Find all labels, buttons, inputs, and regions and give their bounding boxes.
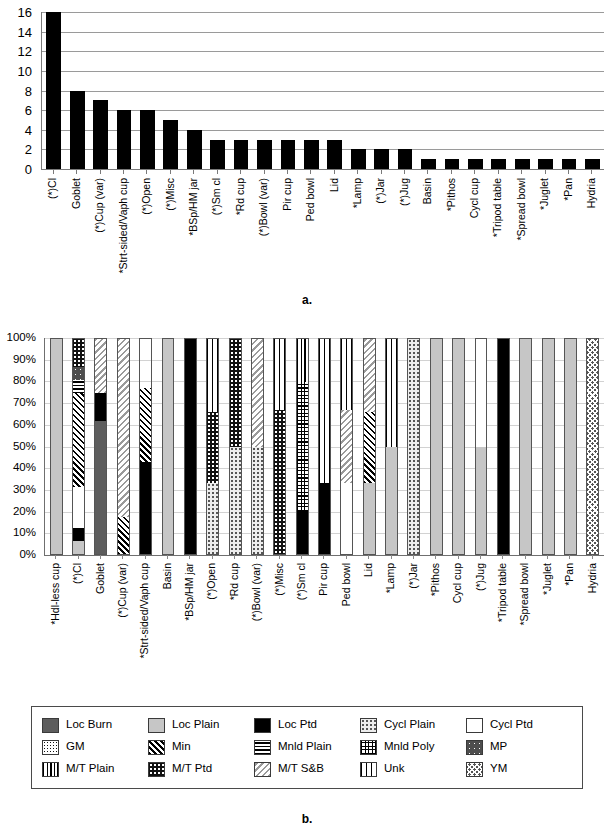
stack-segment-loc_ptd[interactable] bbox=[498, 339, 509, 554]
stacked-bar[interactable] bbox=[519, 338, 532, 555]
legend-item[interactable]: Cycl Ptd bbox=[466, 718, 572, 733]
stack-segment-loc_burn[interactable] bbox=[95, 421, 106, 554]
stack-segment-mp[interactable] bbox=[73, 367, 84, 380]
stacked-bar[interactable] bbox=[430, 338, 443, 555]
bar-slot[interactable] bbox=[534, 12, 557, 169]
bar[interactable] bbox=[538, 159, 553, 169]
bar[interactable] bbox=[70, 91, 85, 170]
bar[interactable] bbox=[210, 140, 225, 169]
stacked-bar-slot[interactable] bbox=[246, 338, 268, 555]
legend-item[interactable]: Unk bbox=[360, 762, 466, 777]
stacked-bar-slot[interactable] bbox=[90, 338, 112, 555]
bar[interactable] bbox=[304, 140, 319, 169]
stacked-bar-slot[interactable] bbox=[492, 338, 514, 555]
bar-slot[interactable] bbox=[487, 12, 510, 169]
stacked-bar[interactable] bbox=[229, 338, 242, 555]
stacked-bar[interactable] bbox=[318, 338, 331, 555]
stacked-bar-slot[interactable] bbox=[380, 338, 402, 555]
legend-item[interactable]: GM bbox=[42, 740, 148, 755]
stack-segment-min[interactable] bbox=[73, 393, 84, 488]
bar-slot[interactable] bbox=[42, 12, 65, 169]
stack-segment-mt_plain[interactable] bbox=[297, 339, 308, 382]
legend-item[interactable]: Loc Ptd bbox=[254, 718, 360, 733]
bar[interactable] bbox=[257, 140, 272, 169]
stacked-bar[interactable] bbox=[497, 338, 510, 555]
stack-segment-mt_sb[interactable] bbox=[341, 410, 352, 483]
bar[interactable] bbox=[46, 12, 61, 169]
stacked-bar[interactable] bbox=[542, 338, 555, 555]
stack-segment-loc_ptd[interactable] bbox=[140, 462, 151, 554]
stack-segment-loc_ptd[interactable] bbox=[319, 483, 330, 554]
legend-item[interactable]: Mnld Plain bbox=[254, 740, 360, 755]
stacked-bar-slot[interactable] bbox=[336, 338, 358, 555]
stacked-bar[interactable] bbox=[50, 338, 63, 555]
bar-slot[interactable] bbox=[159, 12, 182, 169]
bar-slot[interactable] bbox=[417, 12, 440, 169]
bar-slot[interactable] bbox=[276, 12, 299, 169]
bar-slot[interactable] bbox=[300, 12, 323, 169]
stack-segment-unk[interactable] bbox=[341, 339, 352, 410]
legend-item[interactable]: M/T S&B bbox=[254, 762, 360, 777]
bar-slot[interactable] bbox=[65, 12, 88, 169]
stacked-bar-slot[interactable] bbox=[45, 338, 67, 555]
bar[interactable] bbox=[421, 159, 436, 169]
bar[interactable] bbox=[140, 110, 155, 169]
stack-segment-loc_plain[interactable] bbox=[163, 339, 174, 554]
stacked-bar[interactable] bbox=[452, 338, 465, 555]
stack-segment-loc_plain[interactable] bbox=[73, 541, 84, 554]
stacked-bar-slot[interactable] bbox=[67, 338, 89, 555]
stack-segment-ym[interactable] bbox=[587, 339, 598, 554]
bar-slot[interactable] bbox=[206, 12, 229, 169]
stack-segment-loc_ptd[interactable] bbox=[95, 393, 106, 421]
bar[interactable] bbox=[374, 149, 389, 169]
bar[interactable] bbox=[398, 149, 413, 169]
stacked-bar-slot[interactable] bbox=[157, 338, 179, 555]
stack-segment-mt_ptd[interactable] bbox=[274, 410, 285, 554]
stacked-bar[interactable] bbox=[296, 338, 309, 555]
stack-segment-min[interactable] bbox=[140, 388, 151, 461]
stacked-bar-slot[interactable] bbox=[358, 338, 380, 555]
stack-segment-min[interactable] bbox=[118, 517, 129, 554]
bar[interactable] bbox=[187, 130, 202, 169]
stack-segment-unk[interactable] bbox=[207, 339, 218, 412]
legend-item[interactable]: Min bbox=[148, 740, 254, 755]
stacked-bar[interactable] bbox=[162, 338, 175, 555]
bar[interactable] bbox=[351, 149, 366, 169]
stacked-bar[interactable] bbox=[340, 338, 353, 555]
stacked-bar-slot[interactable] bbox=[224, 338, 246, 555]
bar[interactable] bbox=[515, 159, 530, 169]
bar-slot[interactable] bbox=[557, 12, 580, 169]
stack-segment-loc_plain[interactable] bbox=[520, 339, 531, 554]
stack-segment-mt_sb[interactable] bbox=[95, 339, 106, 393]
bar-slot[interactable] bbox=[323, 12, 346, 169]
legend-item[interactable]: Loc Plain bbox=[148, 718, 254, 733]
stacked-bar-slot[interactable] bbox=[112, 338, 134, 555]
bar-slot[interactable] bbox=[440, 12, 463, 169]
stack-segment-loc_plain[interactable] bbox=[51, 339, 62, 554]
stacked-bar[interactable] bbox=[251, 338, 264, 555]
bar-slot[interactable] bbox=[464, 12, 487, 169]
stack-segment-loc_ptd[interactable] bbox=[297, 511, 308, 554]
bar[interactable] bbox=[491, 159, 506, 169]
stack-segment-cycl_ptd[interactable] bbox=[476, 339, 487, 447]
legend-item[interactable]: MP bbox=[466, 740, 572, 755]
stacked-bar[interactable] bbox=[117, 338, 130, 555]
stacked-bar[interactable] bbox=[206, 338, 219, 555]
stack-segment-unk[interactable] bbox=[274, 339, 285, 410]
bar-slot[interactable] bbox=[370, 12, 393, 169]
stacked-bar-slot[interactable] bbox=[134, 338, 156, 555]
stacked-bar[interactable] bbox=[72, 338, 85, 555]
stacked-bar[interactable] bbox=[407, 338, 420, 555]
bar[interactable] bbox=[281, 140, 296, 169]
stack-segment-mt_sb[interactable] bbox=[252, 339, 263, 447]
stacked-bar[interactable] bbox=[564, 338, 577, 555]
legend-item[interactable]: YM bbox=[466, 762, 572, 777]
bar[interactable] bbox=[468, 159, 483, 169]
bar-slot[interactable] bbox=[346, 12, 369, 169]
stack-segment-mt_ptd[interactable] bbox=[207, 412, 218, 483]
bar[interactable] bbox=[562, 159, 577, 169]
stack-segment-loc_plain[interactable] bbox=[453, 339, 464, 554]
stacked-bar-slot[interactable] bbox=[313, 338, 335, 555]
bar-slot[interactable] bbox=[393, 12, 416, 169]
stack-segment-cycl_plain[interactable] bbox=[207, 483, 218, 554]
